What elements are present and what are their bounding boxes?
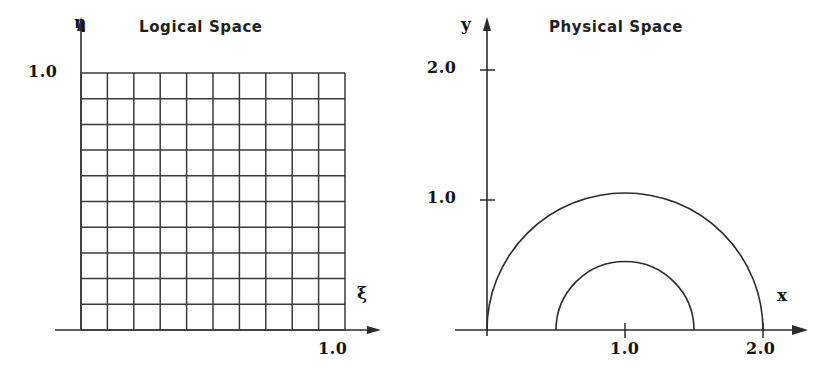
physical-space-plot xyxy=(416,0,832,386)
physical-y-tick-1: 1.0 xyxy=(427,188,456,207)
inner-semicircle xyxy=(556,262,694,331)
logical-grid xyxy=(81,73,345,330)
physical-y-axis-label: y xyxy=(461,14,471,34)
panel-logical-space: Logical Space xyxy=(0,0,416,386)
logical-space-plot xyxy=(0,0,416,386)
logical-y-tick-1: 1.0 xyxy=(28,62,57,81)
physical-x-tick-1: 1.0 xyxy=(610,339,639,358)
logical-x-tick-1: 1.0 xyxy=(318,339,347,358)
logical-x-axis-label: ξ xyxy=(357,283,367,303)
figure-canvas: Logical Space xyxy=(0,0,832,386)
panel-physical-space: Physical Space y x 2.0 1.0 xyxy=(416,0,832,386)
physical-x-axis xyxy=(455,323,808,338)
physical-y-tick-2: 2.0 xyxy=(427,58,456,77)
physical-x-tick-2: 2.0 xyxy=(746,339,775,358)
physical-x-axis-label: x xyxy=(777,285,787,305)
logical-y-axis-label: η xyxy=(74,12,86,32)
